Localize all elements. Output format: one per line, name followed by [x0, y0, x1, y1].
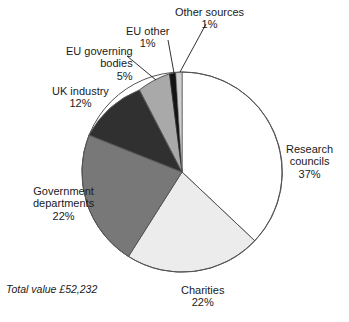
pie-chart-figure: Other sources 1% EU other 1% EU governin… — [0, 0, 349, 322]
pie-slices — [82, 72, 283, 272]
slice-label-uk-industry: UK industry 12% — [52, 85, 109, 110]
slice-label-government-departments-line1: Government — [33, 185, 94, 197]
slice-label-charities: Charities 22% — [181, 284, 224, 309]
slice-value-uk-industry: 12% — [52, 97, 109, 109]
slice-label-other-sources-text: Other sources — [175, 6, 244, 18]
slice-label-research-councils-line1: Research — [286, 143, 333, 155]
slice-value-government-departments: 22% — [33, 210, 94, 222]
leader-line-other-sources — [180, 24, 206, 72]
slice-value-other-sources: 1% — [175, 18, 244, 30]
slice-label-uk-industry-text: UK industry — [52, 85, 109, 97]
slice-label-eu-governing-bodies-line2: bodies — [66, 57, 133, 69]
slice-label-research-councils: Research councils 37% — [286, 143, 333, 180]
slice-value-eu-governing-bodies: 5% — [66, 70, 133, 82]
slice-label-government-departments-line2: departments — [33, 197, 94, 209]
slice-label-eu-governing-bodies: EU governing bodies 5% — [66, 45, 133, 82]
slice-label-eu-other-text: EU other — [126, 25, 169, 37]
slice-value-research-councils: 37% — [286, 168, 333, 180]
slice-label-charities-text: Charities — [181, 284, 224, 296]
slice-label-research-councils-line2: councils — [286, 155, 333, 167]
slice-label-other-sources: Other sources 1% — [175, 6, 244, 31]
slice-label-government-departments: Government departments 22% — [33, 185, 94, 222]
total-value-footnote: Total value £52,232 — [6, 283, 97, 295]
slice-label-eu-governing-bodies-line1: EU governing — [66, 45, 133, 57]
slice-value-charities: 22% — [181, 296, 224, 308]
